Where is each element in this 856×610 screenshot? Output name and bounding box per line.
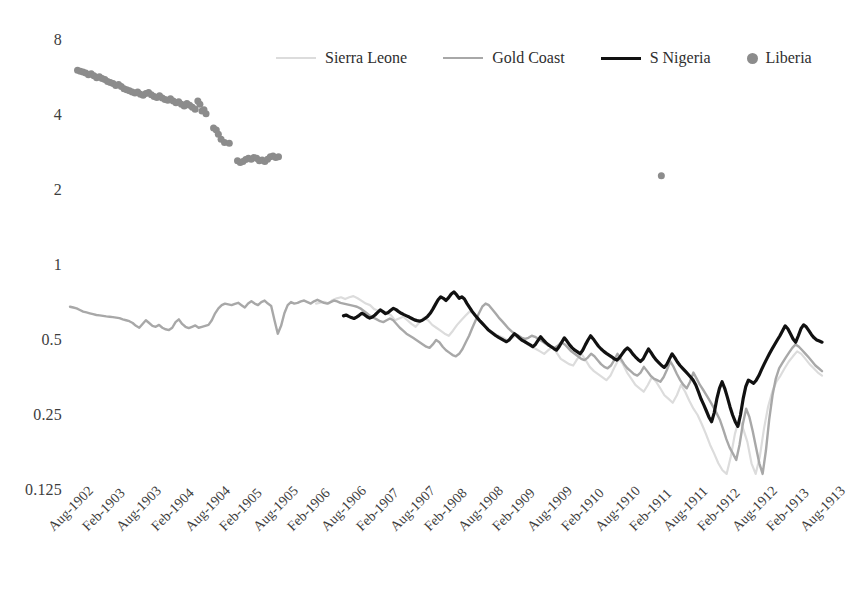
legend-spacer <box>565 58 601 59</box>
legend-spacer <box>711 58 747 59</box>
legend-item-label: Liberia <box>766 50 812 66</box>
series-line-gold-coast <box>70 300 822 474</box>
legend-item-label: Gold Coast <box>492 50 564 66</box>
legend-item-s-nigeria[interactable]: S Nigeria <box>601 45 711 71</box>
legend-item-label: S Nigeria <box>650 50 711 66</box>
scatter-point <box>203 110 210 117</box>
scatter-point <box>275 153 282 160</box>
chart-container: 84210.50.250.125 Aug-1902Feb-1903Aug-190… <box>0 0 856 610</box>
legend-line-marker-icon <box>601 57 641 60</box>
legend-line-marker-icon <box>443 57 483 59</box>
legend-item-gold-coast[interactable]: Gold Coast <box>443 45 564 71</box>
scatter-point <box>226 140 233 147</box>
series-scatter-liberia <box>74 67 665 180</box>
legend-dot-marker-icon <box>747 53 758 64</box>
chart-legend: Sierra LeoneGold CoastS NigeriaLiberia <box>276 45 812 71</box>
scatter-point <box>658 172 665 179</box>
legend-item-sierra-leone[interactable]: Sierra Leone <box>276 45 407 71</box>
legend-item-liberia[interactable]: Liberia <box>747 45 812 71</box>
legend-item-label: Sierra Leone <box>325 50 407 66</box>
legend-spacer <box>407 58 443 59</box>
legend-line-marker-icon <box>276 57 316 59</box>
